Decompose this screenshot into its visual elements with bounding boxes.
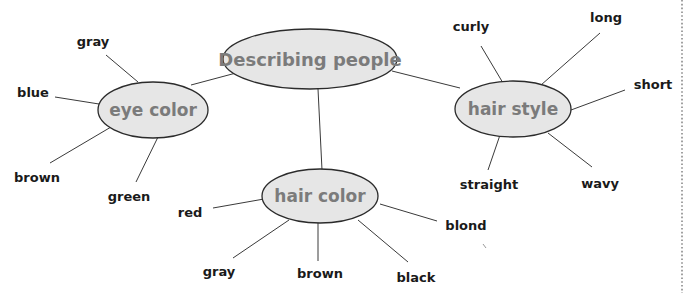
hair-color-label: hair color	[274, 186, 366, 206]
leaf-eye-green: green	[108, 189, 151, 204]
eye-color-label: eye color	[109, 100, 197, 120]
leaf-style-curly: curly	[453, 19, 490, 34]
leaf-eye-gray: gray	[77, 34, 110, 49]
edge-eye-green	[136, 137, 158, 182]
leaf-color-gray: gray	[203, 264, 236, 279]
edge-style-long	[541, 33, 600, 85]
central-node: Describing people	[218, 29, 401, 89]
edge-central-hair-color	[318, 89, 322, 170]
leaf-color-red: red	[178, 205, 203, 220]
hair-style-label: hair style	[468, 99, 558, 119]
edge-color-gray	[233, 220, 289, 258]
edge-color-black	[358, 220, 408, 262]
edge-style-wavy	[548, 133, 592, 167]
edge-color-blond	[380, 204, 437, 221]
mind-map-diagram: Describing people eye color hair style h…	[0, 0, 685, 293]
edge-eye-brown	[50, 127, 111, 163]
leaf-color-brown: brown	[297, 266, 343, 281]
leaf-style-wavy: wavy	[581, 176, 619, 191]
central-node-label: Describing people	[218, 49, 401, 70]
edge-central-hair-style	[392, 71, 460, 88]
stray-mark	[483, 244, 486, 248]
edge-eye-blue	[55, 97, 99, 104]
branch-node-hair-style: hair style	[455, 81, 571, 137]
leaf-color-blond: blond	[445, 218, 486, 233]
edge-style-short	[571, 90, 625, 110]
leaf-style-short: short	[634, 77, 673, 92]
edge-style-straight	[488, 135, 500, 170]
branch-node-hair-color: hair color	[262, 169, 378, 223]
leaf-eye-brown: brown	[14, 170, 60, 185]
edge-central-eye-color	[191, 73, 236, 85]
edge-color-red	[213, 199, 264, 208]
leaf-color-black: black	[397, 270, 436, 285]
leaf-style-straight: straight	[460, 177, 518, 192]
leaf-eye-blue: blue	[17, 85, 49, 100]
edge-eye-gray	[106, 55, 138, 82]
leaf-style-long: long	[590, 10, 622, 25]
branch-node-eye-color: eye color	[98, 82, 208, 138]
edge-style-curly	[481, 46, 503, 83]
